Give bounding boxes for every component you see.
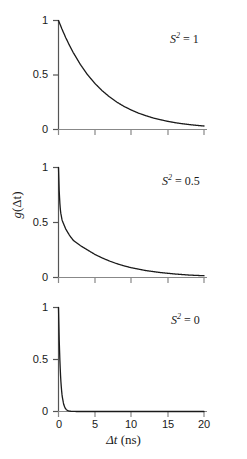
y-tick-label-05-panel-3: 0.5: [16, 354, 48, 365]
annotation-order-parameter-panel-1: S2 = 1: [170, 31, 199, 47]
plot-panel-s2-05: 1 0.5 0 S2 = 0.5: [0, 150, 247, 300]
y-tick-label-1-panel-2: 1: [22, 162, 48, 173]
y-tick-label-1-panel-1: 1: [22, 15, 48, 26]
x-tick-label-5: 5: [85, 419, 105, 430]
x-axis-units: (ns): [121, 432, 141, 447]
annotation-exponent-panel-1: 2: [176, 31, 180, 40]
figure-correlation-decay: 1 0.5 0 S2 = 1 1 0.5 0 S2 = 0.5: [0, 0, 247, 459]
x-tick-label-20: 20: [194, 419, 214, 430]
y-axis-argument: (Δt): [9, 191, 24, 212]
x-tick-label-15: 15: [158, 419, 178, 430]
annotation-order-parameter-panel-3: S2 = 0: [171, 312, 200, 328]
y-axis-function-symbol: g: [9, 212, 24, 219]
annotation-exponent-panel-2: 2: [168, 173, 172, 182]
x-tick-label-0: 0: [49, 419, 69, 430]
y-axis-title: g(Δt): [9, 175, 25, 235]
y-tick-label-05-panel-1: 0.5: [16, 69, 48, 80]
y-tick-label-0-panel-1: 0: [22, 124, 48, 135]
y-tick-label-0-panel-3: 0: [22, 406, 48, 417]
plot-panel-s2-1: 1 0.5 0 S2 = 1: [0, 0, 247, 150]
y-tick-label-1-panel-3: 1: [22, 302, 48, 313]
x-axis-symbol: Δt: [106, 432, 117, 447]
annotation-value-panel-2: 0.5: [185, 174, 200, 188]
x-tick-label-10: 10: [121, 419, 141, 430]
annotation-value-panel-3: 0: [194, 313, 200, 327]
annotation-value-panel-1: 1: [193, 32, 199, 46]
x-axis-title: Δt (ns): [0, 432, 247, 448]
y-tick-label-0-panel-2: 0: [22, 272, 48, 283]
annotation-exponent-panel-3: 2: [177, 312, 181, 321]
annotation-order-parameter-panel-2: S2 = 0.5: [162, 173, 200, 189]
